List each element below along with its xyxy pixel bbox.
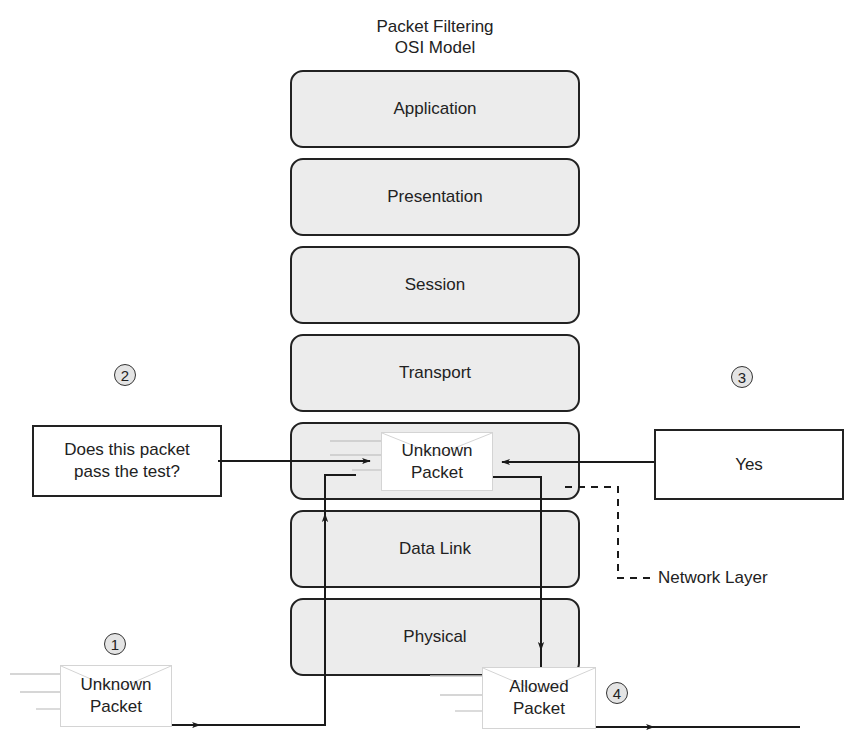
packet-line-2: Packet <box>509 698 569 720</box>
envelope-icon-unknown-packet-network: Unknown Packet <box>381 432 493 491</box>
question-line-1: Does this packet <box>64 439 190 461</box>
layer-application: Application <box>290 70 580 148</box>
envelope-icon-unknown-packet-incoming: Unknown Packet <box>60 665 172 727</box>
step-number: 1 <box>111 636 119 653</box>
step-1-badge: 1 <box>104 633 126 655</box>
step-number: 4 <box>613 685 621 702</box>
layer-label: Session <box>405 275 465 295</box>
answer-box: Yes <box>654 429 844 500</box>
title-line-1: Packet Filtering <box>290 16 580 37</box>
envelope-icon-allowed-packet: Allowed Packet <box>482 667 596 729</box>
step-number: 2 <box>121 367 129 384</box>
step-number: 3 <box>738 369 746 386</box>
packet-line-2: Packet <box>402 462 473 484</box>
layer-label: Application <box>393 99 476 119</box>
layer-session: Session <box>290 246 580 324</box>
layer-transport: Transport <box>290 334 580 412</box>
question-box: Does this packet pass the test? <box>32 425 222 497</box>
packet-line-2: Packet <box>81 696 152 718</box>
layer-label: Data Link <box>399 539 471 559</box>
packet-line-1: Unknown <box>402 440 473 462</box>
step-3-badge: 3 <box>731 366 753 388</box>
step-2-badge: 2 <box>114 364 136 386</box>
network-layer-callout-label: Network Layer <box>658 568 768 588</box>
layer-label: Presentation <box>387 187 482 207</box>
layer-physical: Physical <box>290 598 580 676</box>
title-line-2: OSI Model <box>290 37 580 58</box>
answer-label: Yes <box>735 454 763 476</box>
layer-presentation: Presentation <box>290 158 580 236</box>
packet-line-1: Unknown <box>81 674 152 696</box>
step-4-badge: 4 <box>606 682 628 704</box>
diagram-title: Packet Filtering OSI Model <box>290 16 580 58</box>
layer-data-link: Data Link <box>290 510 580 588</box>
layer-label: Physical <box>403 627 466 647</box>
layer-label: Transport <box>399 363 471 383</box>
question-line-2: pass the test? <box>64 461 190 483</box>
packet-line-1: Allowed <box>509 676 569 698</box>
